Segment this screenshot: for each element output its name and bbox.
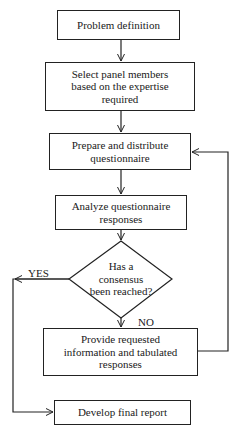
decision-text: Has a consensus been reached?	[88, 260, 154, 298]
node-text: Select panel members based on the expert…	[60, 68, 180, 106]
node-text: Prepare and distribute questionnaire	[68, 139, 172, 164]
node-text: Provide requested information and tabula…	[58, 333, 183, 371]
node-prepare-questionnaire: Prepare and distribute questionnaire	[49, 133, 191, 170]
node-provide-information: Provide requested information and tabula…	[43, 328, 198, 376]
node-text: Analyze questionnaire responses	[64, 200, 178, 225]
node-text: Problem definition	[77, 19, 160, 32]
node-select-panel: Select panel members based on the expert…	[45, 62, 195, 111]
node-problem-definition: Problem definition	[57, 10, 180, 40]
node-develop-final-report: Develop final report	[54, 400, 191, 425]
arrow-feedback-loop	[192, 152, 228, 351]
node-text: Develop final report	[78, 406, 167, 419]
no-label: NO	[138, 316, 154, 328]
node-analyze-responses: Analyze questionnaire responses	[55, 195, 187, 230]
yes-label: YES	[28, 267, 49, 279]
